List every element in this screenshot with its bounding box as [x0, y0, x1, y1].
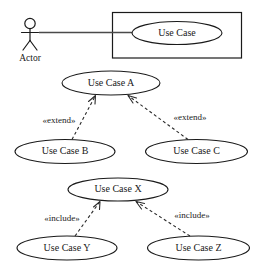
- use-case-label-x: Use Case X: [94, 183, 142, 194]
- use-case-label-usecase: Use Case: [158, 27, 196, 38]
- diagram-canvas: Actor Use Case Use Case A Use Case B Use…: [0, 0, 257, 269]
- use-case-diagram: Actor Use Case Use Case A Use Case B Use…: [0, 0, 257, 269]
- use-case-label-b: Use Case B: [42, 145, 89, 156]
- stereotype-label-include-z: «include»: [174, 210, 210, 220]
- stereotype-label-extend-c: «extend»: [174, 112, 207, 122]
- use-case-label-z: Use Case Z: [175, 242, 221, 253]
- dependency-line-b-to-a: [72, 96, 96, 140]
- stereotype-label-extend-b: «extend»: [43, 115, 76, 125]
- actor-figure: [22, 18, 39, 50]
- actor-left-leg-line: [23, 41, 30, 51]
- actor-label: Actor: [19, 53, 41, 63]
- use-case-label-y: Use Case Y: [44, 242, 91, 253]
- stereotype-label-include-y: «include»: [44, 213, 80, 223]
- actor-right-leg-line: [30, 41, 37, 51]
- dependency-arrowhead-z-to-x: [136, 202, 145, 210]
- actor-head-icon: [25, 18, 35, 28]
- use-case-label-a: Use Case A: [88, 77, 135, 88]
- use-case-label-c: Use Case C: [173, 145, 220, 156]
